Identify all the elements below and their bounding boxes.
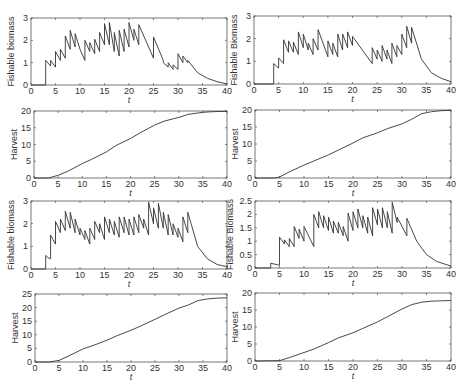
y-tick-label: 10 [22, 330, 32, 340]
x-tick-label: 25 [150, 363, 160, 373]
y-tick-label: 3 [246, 11, 251, 21]
panel-4: 051015202530354005101520tHarvest [230, 105, 456, 198]
x-tick-label: 0 [252, 362, 257, 372]
x-tick-label: 35 [421, 269, 431, 279]
x-tick-label: 30 [397, 269, 407, 279]
y-tick-label: 20 [21, 106, 31, 116]
x-tick-label: 25 [148, 86, 158, 96]
panel-3: 051015202530354005101520tHarvest [9, 106, 232, 198]
y-tick-label: 0 [27, 357, 32, 367]
x-tick-label: 30 [174, 179, 184, 189]
x-axis-label: t [352, 371, 355, 381]
y-tick-label: 15 [21, 123, 31, 133]
axes-frame [255, 201, 451, 268]
x-tick-label: 0 [252, 179, 257, 189]
axes-frame [255, 110, 451, 178]
x-tick-label: 40 [222, 270, 232, 280]
x-tick-label: 15 [99, 86, 109, 96]
figure-grid: 05101520253035400123tFishable biomass051… [0, 0, 466, 392]
data-series-line [255, 110, 451, 178]
data-series-line [34, 111, 227, 178]
axes-frame [255, 293, 451, 361]
x-tick-label: 25 [372, 269, 382, 279]
x-axis-label: t [352, 188, 355, 198]
x-tick-label: 0 [32, 363, 37, 373]
y-axis-label: Harvest [10, 312, 20, 344]
x-axis-label: t [129, 188, 132, 198]
y-tick-label: 15 [242, 305, 252, 315]
y-axis-label: Harvest [230, 128, 240, 160]
x-tick-label: 5 [276, 85, 281, 95]
y-tick-label: 10 [242, 322, 252, 332]
y-tick-label: 10 [242, 139, 252, 149]
x-tick-label: 10 [299, 179, 309, 189]
y-tick-label: 2 [246, 34, 251, 44]
x-tick-label: 15 [323, 85, 333, 95]
x-axis-label: t [351, 94, 354, 104]
x-tick-label: 25 [148, 270, 158, 280]
x-tick-label: 5 [277, 269, 282, 279]
y-tick-label: 1.5 [239, 223, 252, 233]
x-tick-label: 0 [252, 269, 257, 279]
y-tick-label: 1 [23, 58, 28, 68]
y-tick-label: 2.5 [239, 196, 252, 206]
x-tick-label: 30 [174, 363, 184, 373]
x-tick-label: 40 [446, 179, 456, 189]
x-tick-label: 40 [222, 179, 232, 189]
x-tick-label: 15 [323, 362, 333, 372]
y-tick-label: 1 [23, 241, 28, 251]
x-tick-label: 10 [299, 362, 309, 372]
x-tick-label: 15 [323, 179, 333, 189]
x-tick-label: 30 [173, 86, 183, 96]
x-tick-label: 40 [446, 85, 456, 95]
data-series-line [255, 202, 451, 268]
x-tick-label: 40 [222, 86, 232, 96]
y-tick-label: 20 [242, 288, 252, 298]
axes-frame [35, 294, 227, 362]
x-tick-label: 5 [53, 270, 58, 280]
y-tick-label: 3 [23, 196, 28, 206]
y-tick-label: 5 [27, 343, 32, 353]
data-series-line [255, 301, 451, 362]
y-tick-label: 0 [247, 173, 252, 183]
x-axis-label: t [128, 95, 131, 105]
y-axis-label: Fishable biomass [6, 199, 16, 270]
panel-6: 051015202530354000.511.522.5tFishable Bi… [225, 196, 456, 288]
x-tick-label: 35 [197, 86, 207, 96]
x-tick-label: 0 [28, 86, 33, 96]
x-tick-label: 35 [421, 179, 431, 189]
y-axis-label: Fishable Biomass [229, 14, 239, 86]
x-tick-label: 0 [28, 270, 33, 280]
x-tick-label: 25 [372, 85, 382, 95]
x-tick-label: 15 [99, 270, 109, 280]
y-tick-label: 0 [246, 79, 251, 89]
y-axis-label: Fishable biomass [6, 16, 16, 87]
x-tick-label: 30 [397, 362, 407, 372]
x-tick-label: 5 [56, 179, 61, 189]
x-tick-label: 40 [446, 269, 456, 279]
axes-frame [34, 111, 227, 178]
x-tick-label: 35 [421, 85, 431, 95]
y-tick-label: 20 [242, 105, 252, 115]
x-tick-label: 10 [78, 363, 88, 373]
x-tick-label: 5 [277, 362, 282, 372]
x-axis-label: t [130, 372, 133, 382]
y-axis-label: Harvest [9, 129, 19, 161]
y-tick-label: 5 [26, 156, 31, 166]
x-tick-label: 25 [372, 179, 382, 189]
y-tick-label: 1 [247, 236, 252, 246]
y-axis-label: Harvest [230, 311, 240, 343]
data-series-line [35, 298, 227, 362]
x-tick-label: 15 [101, 179, 111, 189]
y-tick-label: 2 [23, 35, 28, 45]
y-tick-label: 0 [247, 356, 252, 366]
x-tick-label: 30 [173, 270, 183, 280]
x-tick-label: 10 [298, 85, 308, 95]
y-tick-label: 20 [22, 303, 32, 313]
x-axis-label: t [128, 279, 131, 289]
x-tick-label: 35 [198, 363, 208, 373]
y-tick-label: 1 [246, 56, 251, 66]
y-tick-label: 2 [247, 209, 252, 219]
x-tick-label: 25 [372, 362, 382, 372]
y-tick-label: 5 [247, 339, 252, 349]
